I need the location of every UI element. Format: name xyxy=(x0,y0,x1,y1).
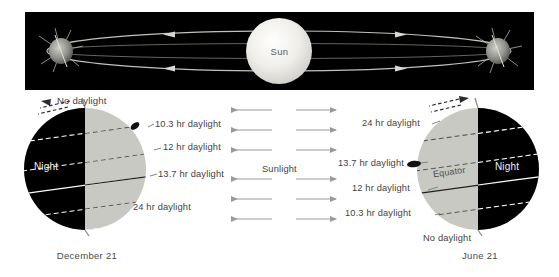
december-label-12: 12 hr daylight xyxy=(163,143,221,152)
rotation-arrow-icon xyxy=(429,96,469,112)
sunlight-label: Sunlight xyxy=(262,164,297,174)
orbit-arrow-bottom-right xyxy=(395,66,407,72)
orbit-arrow-top-right xyxy=(395,32,407,38)
june-no-daylight-label: No daylight xyxy=(423,234,471,243)
sun-sphere xyxy=(246,18,312,84)
december-axis-bottom xyxy=(85,230,89,236)
june-night-label: Night xyxy=(495,162,519,172)
orbit-arrow-top-left xyxy=(163,32,175,38)
december-no-daylight-label: No daylight xyxy=(57,96,107,106)
june-axis-bottom xyxy=(478,230,482,236)
december-globe: Night xyxy=(22,96,152,236)
june-caption: June 21 xyxy=(415,250,545,261)
june-leader-lines xyxy=(400,112,440,222)
earth-left-orbit xyxy=(39,28,83,72)
june-axis-top xyxy=(475,98,478,108)
december-night-label: Night xyxy=(34,162,58,172)
orbit-diagram xyxy=(25,12,534,90)
june-sunray-marker xyxy=(407,160,422,168)
figure-canvas: Sun xyxy=(0,0,559,277)
december-leader-lines xyxy=(140,110,170,220)
orbit-arrow-bottom-left xyxy=(163,66,175,72)
orbit-panel: Sun xyxy=(25,12,534,90)
june-label-13-7: 13.7 hr daylight xyxy=(338,159,404,168)
earth-right-orbit xyxy=(476,28,522,73)
december-caption: December 21 xyxy=(22,250,152,261)
